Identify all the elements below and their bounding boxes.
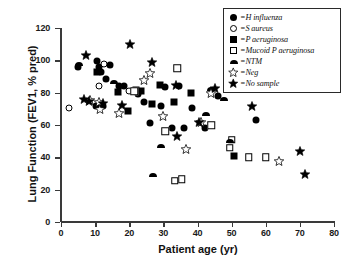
x-tick-label: 0 (59, 228, 64, 238)
marker-open-circle (230, 25, 237, 32)
data-point (193, 116, 204, 127)
y-tick (55, 60, 60, 61)
data-point (103, 75, 110, 82)
data-point (95, 83, 102, 90)
data-point (97, 98, 108, 109)
legend-marker-open-circle (227, 23, 240, 34)
x-tick-label: 70 (295, 228, 305, 238)
legend-item-label: =S aureus (240, 24, 273, 33)
marker-open-star (228, 67, 239, 78)
data-point (117, 99, 128, 110)
legend-item: =Mucoid P aeruginosa (227, 45, 336, 56)
data-point (262, 154, 270, 162)
chart-legend: =H influenza=S aureus=P aeruginosa=Mucoi… (223, 8, 341, 93)
y-tick-label: 60 (0, 120, 50, 130)
data-point (158, 111, 169, 122)
data-point (66, 105, 73, 112)
y-tick (55, 222, 60, 223)
data-point (171, 79, 182, 90)
data-point (137, 88, 144, 95)
legend-item-label: =H influenza (240, 13, 282, 22)
data-point (170, 99, 177, 106)
data-point (100, 60, 107, 67)
marker-half-circle (230, 60, 238, 64)
data-point (180, 144, 191, 155)
data-point (148, 100, 155, 107)
x-tick (198, 222, 199, 227)
marker-filled-square (230, 36, 237, 43)
data-point (149, 173, 157, 177)
legend-marker-filled-square (227, 34, 240, 45)
x-axis-label: Patient age (yr) (61, 243, 335, 255)
legend-item-label: =Mucoid P aeruginosa (240, 46, 314, 55)
x-tick (95, 222, 96, 227)
marker-open-square (230, 47, 238, 55)
legend-item: =S aureus (227, 23, 336, 34)
data-point (94, 68, 101, 75)
legend-item-label: =NTM (240, 57, 262, 66)
legend-item-label: =Neg (240, 68, 258, 77)
x-tick (163, 222, 164, 227)
legend-marker-filled-star (227, 78, 240, 89)
data-point (75, 62, 83, 66)
y-tick (55, 28, 60, 29)
data-point (202, 112, 210, 116)
data-point (187, 89, 194, 96)
y-tick (55, 93, 60, 94)
y-tick (55, 190, 60, 191)
data-point (172, 131, 183, 142)
data-point (144, 68, 155, 79)
x-tick-label: 10 (90, 228, 100, 238)
legend-marker-open-square (227, 45, 240, 56)
marker-filled-star (228, 78, 239, 89)
legend-item: =NTM (227, 56, 336, 67)
y-tick-label: 100 (0, 55, 50, 65)
data-point (83, 95, 94, 106)
x-tick-label: 50 (227, 228, 237, 238)
legend-item-label: =No sample (240, 79, 279, 88)
data-point (294, 145, 305, 156)
legend-marker-half-circle (227, 56, 240, 67)
x-tick (300, 222, 301, 227)
data-point (146, 56, 157, 67)
legend-item: =Neg (227, 67, 336, 78)
data-point (209, 82, 220, 93)
legend-item-label: =P aeruginosa (240, 35, 288, 44)
data-point (226, 144, 234, 152)
data-point (124, 39, 135, 50)
data-point (173, 65, 181, 73)
x-tick (232, 222, 233, 227)
data-point (274, 155, 285, 166)
y-tick (55, 157, 60, 158)
legend-item: =P aeruginosa (227, 34, 336, 45)
legend-item: =H influenza (227, 12, 336, 23)
data-point (110, 80, 118, 84)
data-point (230, 152, 237, 159)
data-point (220, 97, 228, 101)
data-point (207, 121, 215, 129)
marker-filled-circle (230, 14, 237, 21)
data-point (226, 139, 234, 143)
x-tick-label: 60 (261, 228, 271, 238)
x-tick (129, 222, 130, 227)
x-tick-label: 80 (329, 228, 339, 238)
x-tick (61, 222, 62, 227)
data-point (157, 144, 165, 148)
data-point (130, 87, 138, 95)
data-point (141, 99, 148, 106)
y-axis-line (60, 28, 62, 222)
data-point (189, 105, 196, 112)
scatter-chart: 01020304050607080 020406080100120 Patien… (0, 0, 346, 278)
data-point (81, 50, 92, 61)
y-tick (55, 125, 60, 126)
y-axis-label: Lung Function (FEV1, % pred) (26, 14, 38, 234)
data-point (247, 100, 258, 111)
y-tick-label: 0 (0, 217, 50, 227)
x-tick-label: 40 (193, 228, 203, 238)
x-tick-label: 20 (124, 228, 134, 238)
x-tick (334, 222, 335, 227)
data-point (178, 175, 186, 183)
data-point (162, 128, 170, 136)
y-tick-label: 20 (0, 185, 50, 195)
legend-marker-open-star (227, 67, 240, 78)
